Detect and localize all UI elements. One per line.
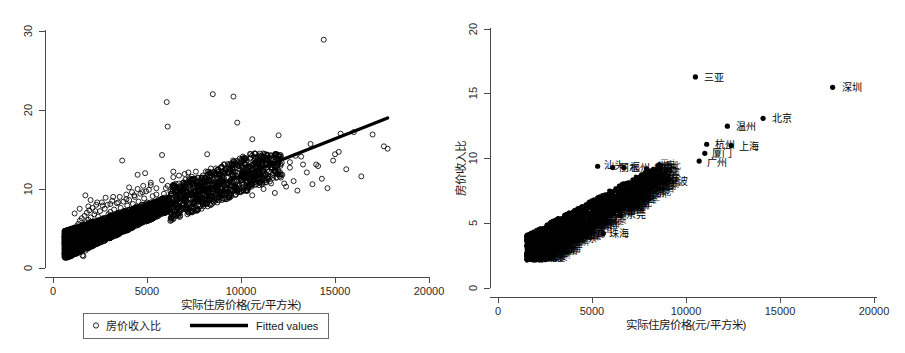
- right-x-ticks: 0 5000 10000 15000 20000: [495, 297, 889, 317]
- left-y-tick-10: 10: [22, 183, 34, 195]
- cluster-point: [563, 213, 567, 217]
- left-y-tick-20: 20: [22, 104, 34, 116]
- right-y-tick-0: 0: [467, 285, 479, 291]
- labeled-city-point: [638, 174, 643, 179]
- labeled-city-point: [830, 85, 835, 90]
- scatter-point: [235, 120, 240, 125]
- scatter-point: [72, 211, 77, 216]
- left-x-ticks: 0 5000 10000 15000 20000: [50, 277, 444, 297]
- legend-line-label: Fitted values: [256, 320, 319, 332]
- labeled-city-point: [697, 158, 702, 163]
- labeled-city-point: [621, 165, 626, 170]
- scatter-point: [231, 94, 236, 99]
- scatter-point: [370, 132, 375, 137]
- scatter-point: [135, 187, 140, 192]
- scatter-point: [325, 186, 330, 191]
- scatter-point: [287, 160, 292, 165]
- left-scatter-panel: 0 10 20 30 0 5000 10000 15000 20000 实际住房…: [0, 0, 452, 353]
- cluster-point: [525, 258, 529, 262]
- left-fitted-line: [66, 118, 387, 245]
- labeled-city-point: [618, 213, 623, 218]
- scatter-point: [310, 182, 315, 187]
- scatter-point: [304, 170, 309, 175]
- right-y-tick-15: 15: [467, 87, 479, 99]
- labeled-city-point: [702, 151, 707, 156]
- right-x-tick-10000: 10000: [671, 305, 702, 317]
- scatter-point: [176, 173, 181, 178]
- scatter-point: [385, 146, 390, 151]
- scatter-point: [136, 199, 141, 204]
- scatter-point: [287, 165, 292, 170]
- city-label-广州: 广州: [707, 157, 727, 168]
- scatter-point: [164, 100, 169, 105]
- right-panel-svg: 0 5 10 15 20 房价收入比 0 5000 10000 15000 20…: [452, 0, 905, 353]
- scatter-point: [124, 192, 129, 197]
- right-y-tick-5: 5: [467, 220, 479, 226]
- scatter-point: [117, 194, 122, 199]
- scatter-point: [205, 152, 210, 157]
- city-label-东莞: 东莞: [626, 208, 646, 220]
- scatter-point: [103, 195, 108, 200]
- scatter-point: [120, 158, 125, 163]
- scatter-point: [193, 169, 198, 174]
- scatter-point: [98, 209, 103, 214]
- left-x-axis-title: 实际住房价格(元/平方米): [181, 298, 302, 311]
- right-x-tick-5000: 5000: [580, 305, 604, 317]
- left-x-tick-20000: 20000: [414, 285, 445, 297]
- left-x-tick-10000: 10000: [226, 285, 257, 297]
- scatter-point: [83, 193, 88, 198]
- labeled-city-point: [631, 188, 636, 193]
- scatter-point: [319, 176, 324, 181]
- left-legend: 房价收入比 Fitted values: [83, 313, 328, 338]
- left-x-tick-15000: 15000: [320, 285, 351, 297]
- city-label-温岭: 温岭: [639, 184, 659, 196]
- cluster-point: [527, 241, 531, 245]
- labeled-city-point: [760, 116, 765, 121]
- left-y-ticks: 0 10 20 30: [22, 25, 45, 271]
- cluster-city-label: 兴城: [539, 252, 557, 262]
- cluster-point: [572, 209, 576, 213]
- right-x-tick-0: 0: [495, 305, 501, 317]
- city-label-三亚: 三亚: [704, 72, 724, 83]
- cluster-point: [556, 217, 560, 221]
- city-label-深圳: 深圳: [842, 82, 862, 93]
- right-y-tick-10: 10: [467, 152, 479, 164]
- right-x-tick-20000: 20000: [859, 305, 890, 317]
- scatter-point: [344, 167, 349, 172]
- labeled-city-point: [595, 164, 600, 169]
- scatter-point: [291, 179, 296, 184]
- scatter-point: [250, 137, 255, 142]
- two-panel-scatter-figure: 0 10 20 30 0 5000 10000 15000 20000 实际住房…: [0, 0, 905, 353]
- right-scatter-panel: 0 5 10 15 20 房价收入比 0 5000 10000 15000 20…: [452, 0, 905, 353]
- left-x-tick-5000: 5000: [135, 285, 159, 297]
- cluster-point: [530, 234, 534, 238]
- right-x-tick-15000: 15000: [765, 305, 796, 317]
- labeled-city-point: [610, 165, 615, 170]
- left-x-tick-0: 0: [50, 285, 56, 297]
- legend-scatter-label: 房价收入比: [106, 319, 161, 332]
- labeled-city-point: [704, 142, 709, 147]
- cluster-city-label: 江市: [613, 190, 631, 201]
- right-y-tick-20: 20: [467, 23, 479, 35]
- scatter-point: [276, 133, 281, 138]
- left-panel-svg: 0 10 20 30 0 5000 10000 15000 20000 实际住房…: [0, 0, 452, 353]
- scatter-point: [135, 172, 140, 177]
- labeled-city-point: [693, 74, 698, 79]
- scatter-point: [295, 188, 300, 193]
- cluster-point: [528, 254, 532, 258]
- scatter-point: [321, 37, 326, 42]
- scatter-point: [171, 169, 176, 174]
- scatter-point: [210, 92, 215, 97]
- scatter-point: [165, 124, 170, 129]
- right-x-axis-title: 实际住房价格(元/平方米): [626, 318, 747, 331]
- right-y-axis-title: 房价收入比: [454, 141, 467, 196]
- scatter-point: [77, 206, 82, 211]
- scatter-point: [88, 198, 93, 203]
- labeled-city-point: [659, 179, 664, 184]
- scatter-point: [127, 185, 132, 190]
- scatter-point: [299, 154, 304, 159]
- scatter-point: [336, 149, 341, 154]
- scatter-point: [154, 186, 159, 191]
- city-label-宁波: 宁波: [668, 175, 688, 187]
- fitted-values-line: [66, 118, 387, 245]
